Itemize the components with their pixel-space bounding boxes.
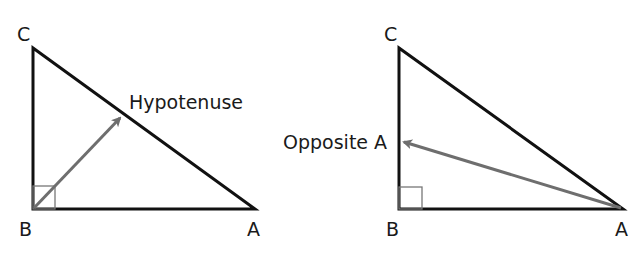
triangle-outline xyxy=(33,48,255,209)
opposite-arrow xyxy=(404,142,621,208)
vertex-label-c: C xyxy=(17,23,30,45)
diagram-canvas: C B A Hypotenuse C B A Opposite A xyxy=(0,0,644,254)
right-angle-marker xyxy=(399,187,422,209)
triangle-outline xyxy=(399,48,623,209)
vertex-label-a: A xyxy=(615,218,628,240)
vertex-label-b: B xyxy=(19,218,32,240)
hypotenuse-arrow xyxy=(34,118,120,208)
hypotenuse-label: Hypotenuse xyxy=(129,91,243,113)
vertex-label-c: C xyxy=(384,23,397,45)
vertex-label-b: B xyxy=(386,218,399,240)
right-triangle: C B A Opposite A xyxy=(283,23,628,240)
opposite-a-label: Opposite A xyxy=(283,131,387,153)
left-triangle: C B A Hypotenuse xyxy=(17,23,260,240)
vertex-label-a: A xyxy=(247,218,260,240)
